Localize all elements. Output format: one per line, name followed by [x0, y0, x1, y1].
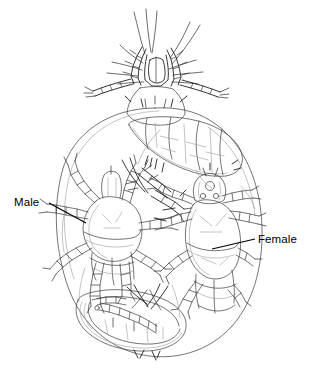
outer-body-outline: [56, 108, 262, 357]
male-mite: [39, 153, 178, 313]
callout-label-female: Female: [258, 234, 297, 246]
misc-detail-lines: [62, 130, 255, 317]
illustration-canvas: [0, 0, 312, 376]
upper-segmented-body: [129, 117, 243, 177]
callout-label-male: Male: [14, 197, 39, 209]
mite-illustration-figure: Male Female: [0, 0, 312, 376]
lower-elongate-mite: [76, 284, 186, 360]
